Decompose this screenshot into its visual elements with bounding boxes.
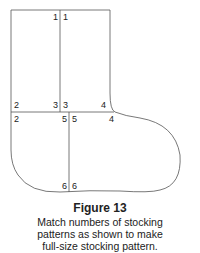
caption-line-2: patterns as shown to make [0, 228, 200, 240]
label-5-right: 5 [72, 114, 77, 124]
label-6-right: 6 [72, 181, 77, 191]
label-1-right: 1 [63, 12, 68, 22]
stocking-pattern-diagram: 1 1 2 3 3 4 2 5 5 4 6 6 [0, 0, 200, 200]
label-6-left: 6 [62, 181, 67, 191]
label-2-upper: 2 [14, 100, 19, 110]
caption-line-3: full-size stocking pattern. [0, 240, 200, 252]
label-2-lower: 2 [14, 114, 19, 124]
caption-line-1: Match numbers of stocking [0, 216, 200, 228]
label-3-left: 3 [53, 100, 58, 110]
stocking-outline [11, 10, 180, 192]
label-3-right: 3 [63, 100, 68, 110]
label-4-lower: 4 [109, 114, 114, 124]
label-5-left: 5 [62, 114, 67, 124]
figure-title: Figure 13 [0, 201, 200, 215]
label-4-upper: 4 [101, 100, 106, 110]
label-1-left: 1 [53, 12, 58, 22]
